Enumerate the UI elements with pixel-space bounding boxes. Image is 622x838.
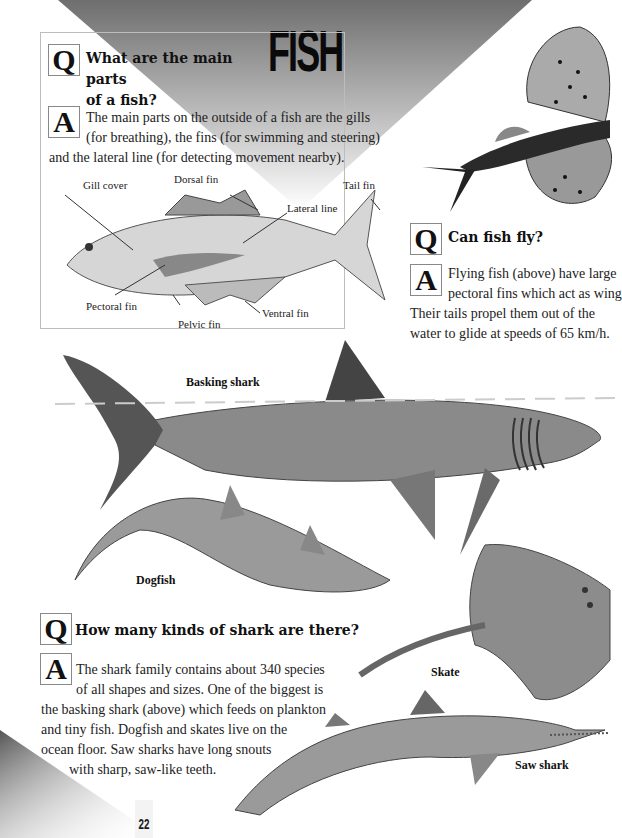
a-badge: A: [48, 106, 80, 138]
page-number: 22: [135, 800, 153, 838]
label-gill-cover: Gill cover: [83, 179, 127, 192]
answer-parts-tail: and the lateral line (for detecting move…: [49, 148, 344, 168]
question-parts: What are the main parts of a fish?: [86, 48, 266, 111]
label-ventral-fin: Ventral fin: [262, 307, 309, 320]
question-fly: Can fish fly?: [448, 227, 543, 248]
label-dogfish: Dogfish: [136, 573, 175, 588]
label-skate: Skate: [431, 665, 460, 680]
skate-illustration: [355, 530, 615, 710]
flying-fish-illustration: [420, 22, 610, 222]
q-badge: Q: [48, 44, 80, 76]
label-pelvic-fin: Pelvic fin: [178, 318, 220, 331]
a-badge-fly: A: [410, 264, 442, 296]
answer-parts: The main parts on the outside of a fish …: [86, 108, 386, 148]
label-lateral-line: Lateral line: [287, 202, 337, 215]
label-pectoral-fin: Pectoral fin: [86, 300, 137, 313]
label-tail-fin: Tail fin: [343, 179, 375, 192]
answer-sharks: The shark family contains about 340 spec…: [76, 660, 325, 700]
label-dorsal-fin: Dorsal fin: [174, 173, 218, 186]
dogfish-illustration: [70, 480, 400, 600]
answer-fly-tail: Their tails propel them out of the water…: [410, 304, 610, 344]
a-badge-sharks: A: [40, 653, 72, 685]
question-sharks: How many kinds of shark are there?: [75, 620, 359, 641]
label-saw-shark: Saw shark: [515, 758, 569, 773]
q-badge-fly: Q: [410, 223, 442, 255]
q-badge-sharks: Q: [40, 613, 72, 645]
answer-fly: Flying fish (above) have large pectoral …: [448, 264, 622, 304]
label-basking-shark: Basking shark: [186, 375, 260, 390]
answer-sharks-tail: the basking shark (above) which feeds on…: [41, 700, 326, 780]
